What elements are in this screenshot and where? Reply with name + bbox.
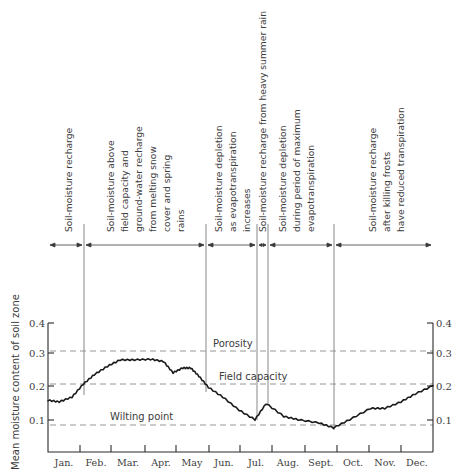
month-jun: Jun. bbox=[213, 457, 233, 468]
moisture-curve bbox=[48, 359, 433, 429]
period-dividers bbox=[84, 224, 334, 430]
right-tick-0.3: 0.3 bbox=[436, 348, 452, 359]
y-axis-label: Mean moisture content of soil zone bbox=[10, 294, 21, 470]
month-mar: Mar. bbox=[117, 457, 139, 468]
left-tick-0.3: 0.3 bbox=[29, 348, 45, 359]
soil-moisture-chart: Soil-moisture recharge Soil-moisture abo… bbox=[0, 0, 460, 476]
month-oct: Oct. bbox=[343, 457, 363, 468]
period-5-line-1: Soil-moisture depletion bbox=[277, 125, 288, 232]
period-arrows bbox=[50, 243, 431, 247]
month-feb: Feb. bbox=[85, 457, 106, 468]
month-dec: Dec. bbox=[406, 457, 428, 468]
right-tick-0.1: 0.1 bbox=[436, 415, 452, 426]
month-sept: Sept. bbox=[308, 457, 333, 468]
field-capacity-label: Field capacity bbox=[219, 371, 288, 382]
right-tick-0.2: 0.2 bbox=[436, 381, 452, 392]
period-6-line-3: have reduced transpiration bbox=[395, 107, 406, 232]
period-2-line-1: Soil-moisture above bbox=[105, 140, 116, 232]
period-2-line-6: rains bbox=[175, 209, 186, 232]
period-2-line-3: ground-water recharge bbox=[133, 126, 144, 232]
reference-lines bbox=[50, 351, 433, 425]
period-6-line-1: Soil-moisture recharge bbox=[367, 127, 378, 232]
right-tick-0.4: 0.4 bbox=[436, 318, 452, 329]
wilting-point-label: Wilting point bbox=[110, 411, 173, 422]
period-annotations: Soil-moisture recharge Soil-moisture abo… bbox=[63, 11, 406, 232]
period-3-line-3: increases bbox=[241, 188, 252, 232]
period-3-line-2: as evapotranspiration bbox=[227, 131, 238, 232]
period-4-line-1: Soil-moisture recharge from heavy summer… bbox=[257, 11, 268, 232]
left-tick-0.2: 0.2 bbox=[29, 381, 45, 392]
period-6-line-2: after killing frosts bbox=[381, 151, 392, 232]
period-5-line-2: during period of maximum bbox=[291, 109, 302, 232]
month-may: May bbox=[182, 457, 204, 468]
left-tick-0.4: 0.4 bbox=[29, 318, 45, 329]
left-tick-0.1: 0.1 bbox=[29, 415, 45, 426]
period-5-line-3: evapotranspiration bbox=[305, 145, 316, 232]
month-nov: Nov. bbox=[374, 457, 396, 468]
porosity-label: Porosity bbox=[213, 338, 253, 349]
month-jan: Jan. bbox=[54, 457, 74, 468]
period-2-line-4: from melting snow bbox=[147, 146, 158, 232]
month-apr: Apr. bbox=[150, 457, 171, 468]
period-1-line-1: Soil-moisture recharge bbox=[63, 127, 74, 232]
left-tick-labels: 0.4 0.3 0.2 0.1 bbox=[29, 318, 45, 426]
right-tick-labels: 0.4 0.3 0.2 0.1 bbox=[436, 318, 452, 426]
period-3-line-1: Soil-moisture depletion bbox=[213, 125, 224, 232]
period-2-line-5: cover and spring bbox=[161, 155, 172, 232]
month-aug: Aug. bbox=[276, 457, 299, 468]
month-jul: Jul. bbox=[247, 457, 264, 468]
period-2-line-2: field capacity and bbox=[119, 150, 130, 232]
month-labels: Jan. Feb. Mar. Apr. May Jun. Jul. Aug. S… bbox=[54, 457, 428, 468]
